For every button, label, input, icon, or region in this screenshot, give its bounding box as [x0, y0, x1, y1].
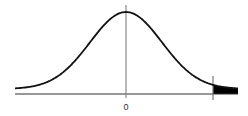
normal-distribution-chart: 0	[0, 0, 248, 116]
x-tick-label-zero: 0	[123, 102, 128, 112]
